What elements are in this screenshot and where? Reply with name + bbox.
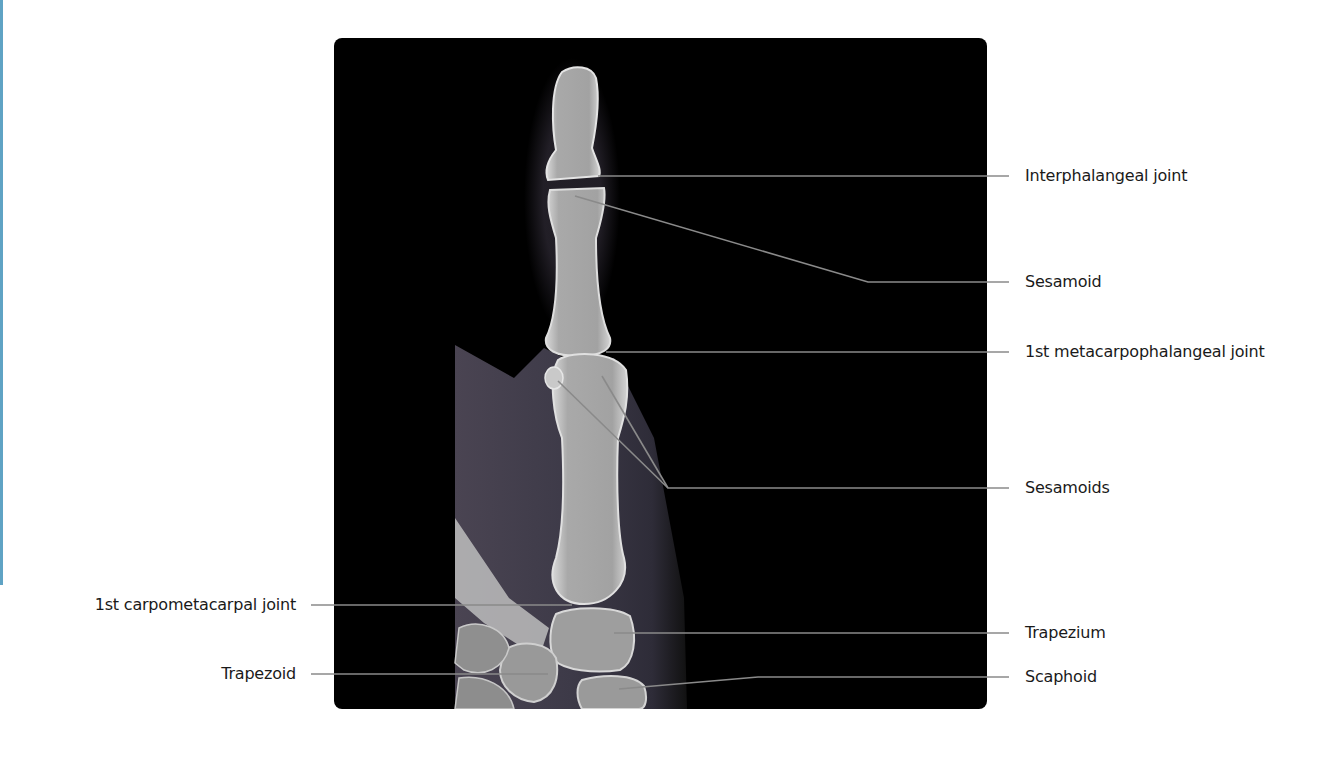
label-sesamoids: Sesamoids	[1025, 478, 1110, 498]
label-first-mcp-joint: 1st metacarpophalangeal joint	[1025, 342, 1265, 362]
label-scaphoid: Scaphoid	[1025, 667, 1097, 687]
label-sesamoid: Sesamoid	[1025, 272, 1102, 292]
accent-bar	[0, 0, 3, 585]
label-trapezium: Trapezium	[1025, 623, 1106, 643]
label-trapezoid: Trapezoid	[221, 664, 296, 684]
xray-image	[334, 38, 987, 709]
label-interphalangeal-joint: Interphalangeal joint	[1025, 166, 1187, 186]
label-first-cmc-joint: 1st carpometacarpal joint	[95, 595, 296, 615]
xray-illustration	[334, 38, 987, 709]
